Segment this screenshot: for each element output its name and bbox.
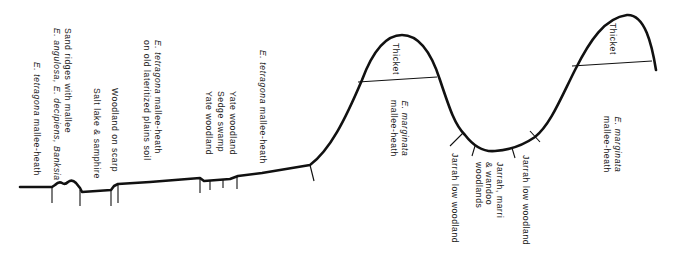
label-tetragona-lateritized: E. tetragona mallee-heath on old laterit…	[142, 40, 163, 161]
zone-tick	[512, 148, 515, 158]
label-sedge-swamp: Sedge swamp	[216, 91, 227, 152]
label-jarrah-marri-wandoo: Jarrah, marri & wandoo woodlands	[474, 162, 506, 219]
label-e-tetragona-heath-left: E. tetragona mallee-heath	[32, 62, 43, 176]
zone-tick	[450, 133, 463, 146]
label-salt-lake: Salt lake & samphire	[92, 88, 103, 179]
label-e-tetragona-heath-right: E. tetragona mallee-heath	[258, 50, 269, 164]
profile-svg	[0, 0, 695, 262]
label-e-marginata-1: E. marginata mallee-heath	[389, 100, 410, 157]
label-sand-ridges: Sand ridges with mallee E. angulosa, E. …	[52, 28, 73, 181]
zone-tick	[472, 146, 475, 156]
label-jarrah-low-woodland-1: Jarrah low woodland	[450, 153, 461, 243]
label-yate-woodland-2: Yate woodland	[228, 91, 239, 155]
label-e-marginata-2: E. marginata mallee-heath	[602, 116, 623, 173]
thicket-boundary-1	[358, 77, 437, 82]
label-woodland-scarp: Woodland on scarp	[110, 88, 121, 172]
label-yate-woodland-1: Yate woodland	[204, 91, 215, 155]
label-jarrah-low-woodland-2: Jarrah low woodland	[521, 155, 532, 245]
zone-tick	[310, 165, 314, 181]
label-thicket-1: Thicket	[391, 43, 402, 75]
thicket-boundary-2	[572, 61, 652, 66]
label-thicket-2: Thicket	[608, 23, 619, 55]
